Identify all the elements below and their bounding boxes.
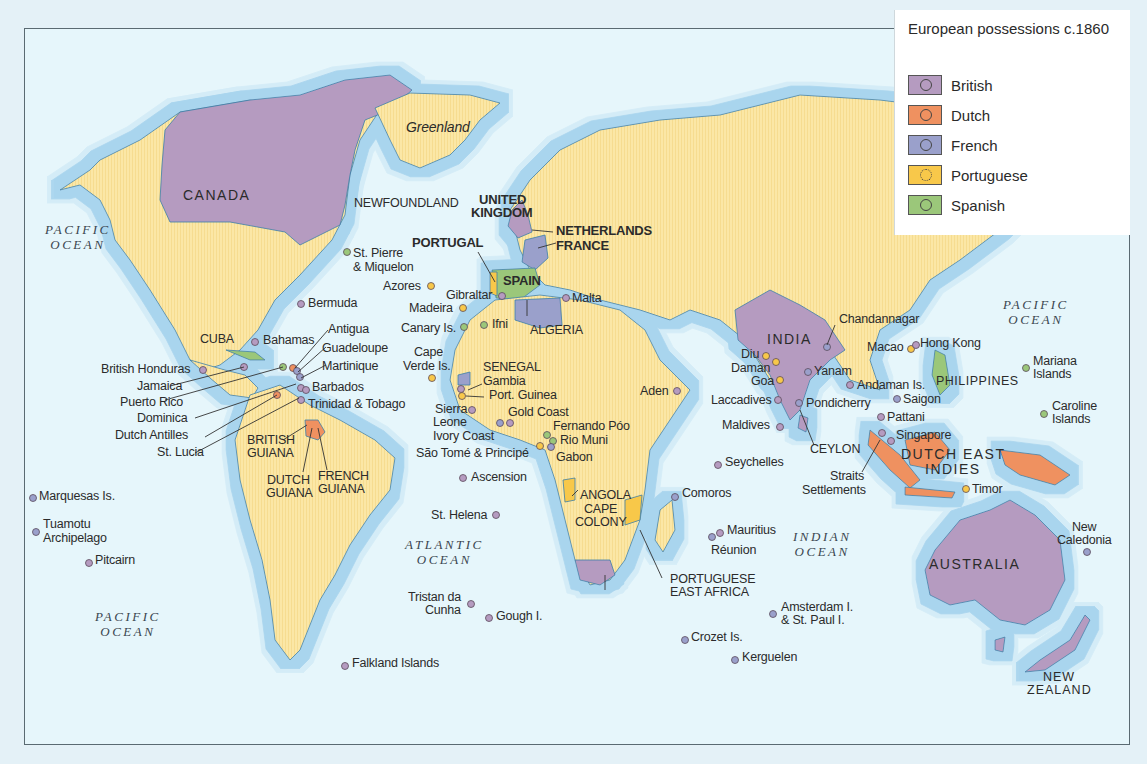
place-seychelles: Seychelles xyxy=(725,456,783,469)
legend-label: French xyxy=(951,137,998,154)
place-laccadives: Laccadives xyxy=(711,394,772,407)
place-puerto-rico: Puerto Rico xyxy=(120,396,183,409)
map-legend: European possessions c.1860 British Dutc… xyxy=(894,10,1130,235)
legend-swatch-portuguese xyxy=(908,165,942,185)
place-barbados: Barbados xyxy=(312,381,364,394)
place-straits-settlements-2: Settlements xyxy=(802,484,866,497)
place-new-caledonia-2: Caledonia xyxy=(1057,534,1112,547)
region-cape-colony-2: COLONY xyxy=(575,516,627,529)
region-dutch-east-indies-1: DUTCH EAST xyxy=(901,448,1005,461)
place-fernando-poo: Fernando Póo xyxy=(553,420,630,433)
java xyxy=(905,487,955,498)
legend-item-dutch: Dutch xyxy=(908,104,990,126)
ocean-label-atlantic: ATLANTICOCEAN xyxy=(405,537,484,567)
region-australia: AUSTRALIA xyxy=(929,558,1020,571)
new-guinea xyxy=(1000,450,1070,485)
place-port-guinea: Port. Guinea xyxy=(489,389,557,402)
place-goa: Goa xyxy=(751,375,774,388)
region-ceylon: CEYLON xyxy=(810,443,860,456)
place-st-lucia: St. Lucia xyxy=(157,446,204,459)
place-gough-i: Gough I. xyxy=(496,610,542,623)
place-pondicherry: Pondicherry xyxy=(806,397,871,410)
place-yanam: Yanam xyxy=(814,365,852,378)
place-diu: Diu xyxy=(741,348,759,361)
central-america xyxy=(190,360,258,398)
place-straits-settlements: Straits xyxy=(830,470,864,483)
legend-item-portuguese: Portuguese xyxy=(908,164,1028,186)
place-kerguelen: Kerguelen xyxy=(742,651,797,664)
place-martinique: Martinique xyxy=(322,360,378,373)
place-comoros: Comoros xyxy=(682,487,731,500)
place-cape-verde: Cape xyxy=(414,346,443,359)
circle-icon xyxy=(920,199,932,211)
place-antigua: Antigua xyxy=(328,323,369,336)
place-mariana-islands-2: Islands xyxy=(1033,368,1071,381)
legend-label: Dutch xyxy=(951,107,990,124)
place-malta: Malta xyxy=(572,292,602,305)
place-rio-muni: Rio Muni xyxy=(560,434,608,447)
region-spain: SPAIN xyxy=(503,274,541,287)
ocean-label-pacific-s: PACIFICOCEAN xyxy=(95,609,161,639)
region-france: FRANCE xyxy=(556,239,609,252)
legend-label: Portuguese xyxy=(951,167,1028,184)
legend-label: Spanish xyxy=(951,197,1005,214)
legend-swatch-french xyxy=(908,135,942,155)
circle-icon xyxy=(920,109,932,121)
place-reunion: Réunion xyxy=(711,544,756,557)
region-greenland: Greenland xyxy=(406,121,470,134)
legend-item-british: British xyxy=(908,74,993,96)
place-sao-tome: São Tomé & Principé xyxy=(416,447,529,460)
place-macao: Macao xyxy=(867,341,904,354)
place-aden: Aden xyxy=(640,385,668,398)
place-crozet-is: Crozet Is. xyxy=(691,631,743,644)
place-ivory-coast: Ivory Coast xyxy=(433,430,494,443)
place-canary-is: Canary Is. xyxy=(401,322,456,335)
region-dutch-east-indies-2: INDIES xyxy=(925,463,981,476)
place-timor: Timor xyxy=(972,483,1002,496)
cape-colony xyxy=(575,560,615,585)
region-newfoundland: NEWFOUNDLAND xyxy=(354,197,459,210)
tasmania xyxy=(995,637,1005,652)
ocean-label-pacific-ne: PACIFICOCEAN xyxy=(1003,297,1069,327)
place-maldives: Maldives xyxy=(722,419,770,432)
region-portugal: PORTUGAL xyxy=(412,236,483,249)
ocean-label-indian: INDIANOCEAN xyxy=(793,529,851,559)
region-cuba: CUBA xyxy=(200,333,234,346)
region-netherlands: NETHERLANDS xyxy=(556,224,652,237)
place-guadeloupe: Guadeloupe xyxy=(322,342,388,355)
place-st-helena: St. Helena xyxy=(431,509,487,522)
place-saigon: Saigon xyxy=(903,393,941,406)
place-sierra-leone-2: Leone xyxy=(433,416,467,429)
angola-coast xyxy=(563,478,575,502)
place-trinidad-tobago: Trinidad & Tobago xyxy=(308,398,405,411)
place-cape-verde-2: Verde Is. xyxy=(403,360,451,373)
place-marquesas: Marquesas Is. xyxy=(39,490,115,503)
place-dutch-antilles: Dutch Antilles xyxy=(115,429,188,442)
region-algeria: ALGERIA xyxy=(530,324,583,337)
place-singapore: Singapore xyxy=(896,429,951,442)
legend-swatch-dutch xyxy=(908,105,942,125)
place-jamaica: Jamaica xyxy=(137,380,182,393)
dotted-circle-icon xyxy=(920,169,932,181)
region-dutch-guiana-2: GUIANA xyxy=(266,487,313,500)
canada-territory xyxy=(160,75,412,245)
place-dominica: Dominica xyxy=(137,412,188,425)
place-caroline-islands-2: Islands xyxy=(1052,413,1090,426)
place-ascension: Ascension xyxy=(471,471,527,484)
circle-icon xyxy=(920,79,932,91)
place-amsterdam-i-2: & St. Paul I. xyxy=(781,614,844,627)
legend-item-french: French xyxy=(908,134,998,156)
region-portuguese-east-africa-2: EAST AFRICA xyxy=(670,586,749,599)
place-tuamotu: Tuamotu xyxy=(43,518,90,531)
legend-swatch-spanish xyxy=(908,195,942,215)
place-pitcairn: Pitcairn xyxy=(95,554,135,567)
place-falkland-islands: Falkland Islands xyxy=(352,657,439,670)
legend-item-spanish: Spanish xyxy=(908,194,1005,216)
ocean-label-pacific-nw: PACIFICOCEAN xyxy=(45,222,111,252)
region-philippines: PHILIPPINES xyxy=(936,375,1019,388)
place-bermuda: Bermuda xyxy=(308,297,357,310)
place-hong-kong: Hong Kong xyxy=(920,337,981,350)
madagascar xyxy=(655,500,675,552)
place-st-pierre: St. Pierre xyxy=(353,247,403,260)
region-canada: CANADA xyxy=(183,189,250,202)
